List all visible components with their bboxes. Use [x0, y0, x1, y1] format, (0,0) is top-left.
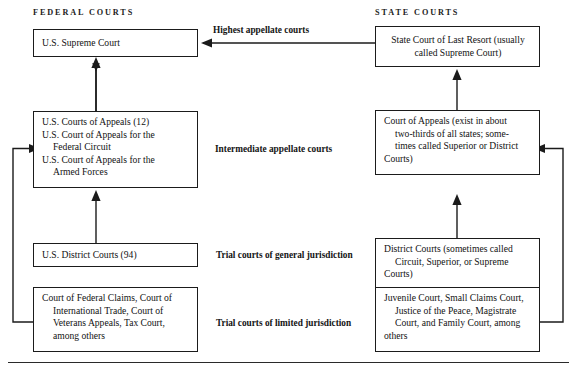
node-federal-limited-jurisdiction-courts: Court of Federal Claims, Court of Intern… [33, 287, 198, 352]
court-system-diagram: FEDERAL COURTS STATE COURTS [0, 0, 577, 375]
node-line: Court of Appeals (exist in about [384, 115, 532, 128]
node-line: Court, and Family Court, among [384, 317, 532, 330]
node-line: Courts) [384, 153, 532, 166]
node-line: Justice of the Peace, Magistrate [384, 305, 532, 318]
node-line: District Courts (sometimes called [384, 243, 532, 256]
footer-divider [8, 362, 569, 363]
edge-line-state-limited-to-appeals [540, 149, 563, 323]
node-line: Courts) [384, 268, 532, 281]
tier-label-general-jurisdiction: Trial courts of general jurisdiction [216, 250, 353, 260]
edge-line-fed-limited-to-appeals [13, 149, 33, 323]
tier-label-highest-appellate: Highest appellate courts [213, 25, 309, 35]
arrowhead-state-appeals-to-last-resort [452, 69, 461, 80]
arrowhead-state-to-fed-supreme [201, 38, 212, 47]
node-line: U.S. District Courts (94) [42, 249, 190, 262]
node-line: Armed Forces [42, 166, 190, 179]
node-line: two-thirds of all states; some- [384, 128, 532, 141]
node-federal-supreme-court: U.S. Supreme Court [33, 29, 198, 57]
node-state-court-of-last-resort: State Court of Last Resort (usually call… [375, 26, 540, 67]
arrowhead-fed-appeals-to-supreme [91, 57, 100, 68]
node-line: International Trade, Court of [42, 305, 190, 318]
node-line: State Court of Last Resort (usually [384, 34, 532, 47]
node-state-court-of-appeals: Court of Appeals (exist in about two-thi… [375, 110, 540, 175]
node-line: Veterans Appeals, Tax Court, [42, 317, 190, 330]
node-line: times called Superior or District [384, 140, 532, 153]
column-heading-federal: FEDERAL COURTS [33, 8, 134, 17]
node-line: U.S. Supreme Court [42, 37, 190, 50]
node-line: U.S. Courts of Appeals (12) [42, 116, 190, 129]
tier-label-limited-jurisdiction: Trial courts of limited jurisdiction [216, 318, 351, 328]
node-state-district-courts: District Courts (sometimes called Circui… [375, 238, 540, 290]
node-state-limited-jurisdiction-courts: Juvenile Court, Small Claims Court, Just… [375, 287, 540, 352]
arrowhead-fed-district-to-appeals [91, 190, 100, 201]
node-federal-courts-of-appeals: U.S. Courts of Appeals (12) U.S. Court o… [33, 111, 198, 188]
node-federal-district-courts: U.S. District Courts (94) [33, 243, 198, 267]
node-line: Circuit, Superior, or Supreme [384, 256, 532, 269]
node-line: U.S. Court of Appeals for the [42, 154, 190, 167]
node-line: Juvenile Court, Small Claims Court, [384, 292, 532, 305]
node-line: called Supreme Court) [384, 47, 532, 60]
node-line: others [384, 330, 532, 343]
tier-label-intermediate-appellate: Intermediate appellate courts [215, 144, 332, 154]
arrowhead-state-district-to-appeals [452, 194, 461, 205]
column-heading-state: STATE COURTS [375, 8, 459, 17]
node-line: among others [42, 330, 190, 343]
node-line: Federal Circuit [42, 141, 190, 154]
node-line: Court of Federal Claims, Court of [42, 292, 190, 305]
node-line: U.S. Court of Appeals for the [42, 129, 190, 142]
